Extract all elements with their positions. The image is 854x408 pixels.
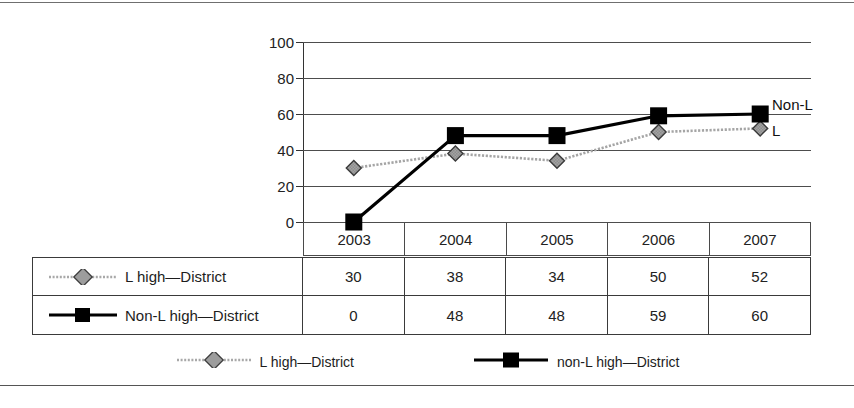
table-cell: 38 [405,258,507,295]
x-axis-category-cell: 2007 [710,223,810,255]
table-row-header: Non-L high—District [33,296,303,334]
x-axis-category-cell: 2005 [507,223,608,255]
table-cell: 52 [709,258,810,295]
diamond-marker-icon [175,352,253,372]
table-cell: 48 [506,296,608,334]
x-axis-category-row: 2003 2004 2005 2006 2007 [303,223,811,256]
table-cell: 34 [506,258,608,295]
square-marker-icon [472,352,550,372]
legend-label: non-L high—District [557,354,679,370]
x-axis-category-cell: 2006 [608,223,709,255]
legend-item-non-l-high: non-L high—District [472,352,679,372]
x-axis-category-cell: 2004 [405,223,506,255]
legend-item-l-high: L high—District [175,352,354,372]
series-edge-label-l: L [772,123,780,138]
table-cell: 0 [303,296,405,334]
table-row-cells: 30 38 34 50 52 [303,258,810,295]
table-row-header: L high—District [33,258,303,295]
table-row-label: Non-L high—District [125,307,259,324]
chart-figure: 100 80 60 40 20 0 [0,0,854,408]
table-row-label: L high—District [125,268,226,285]
data-table: L high—District 30 38 34 50 52 Non-L hig… [32,257,811,335]
figure-bottom-border [0,385,854,386]
plot-region: 100 80 60 40 20 0 [0,0,854,240]
diamond-marker-icon [47,269,119,285]
table-row: Non-L high—District 0 48 48 59 60 [33,296,810,334]
series-edge-label-non-l: Non-L [772,97,813,112]
table-cell: 50 [608,258,710,295]
x-axis-category-cell: 2003 [304,223,405,255]
table-cell: 48 [405,296,507,334]
table-cell: 30 [303,258,405,295]
chart-legend: L high—District non-L high—District [0,348,854,376]
table-row: L high—District 30 38 34 50 52 [33,258,810,296]
square-marker-icon [47,307,119,323]
legend-label: L high—District [260,354,354,370]
table-cell: 59 [608,296,710,334]
series-plot [0,0,854,240]
table-row-cells: 0 48 48 59 60 [303,296,810,334]
table-cell: 60 [709,296,810,334]
